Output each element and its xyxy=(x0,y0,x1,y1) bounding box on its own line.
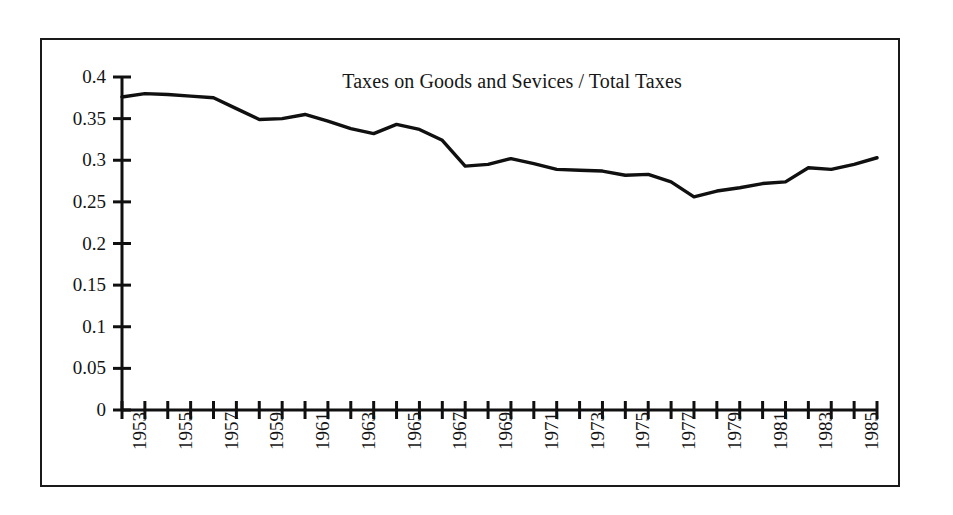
x-tick-label: 1963 xyxy=(359,412,378,450)
x-tick-label: 1973 xyxy=(588,412,607,450)
x-tick-label: 1977 xyxy=(679,412,698,450)
x-tick-label: 1961 xyxy=(313,412,332,450)
x-tick-label: 1965 xyxy=(405,412,424,450)
x-tick-label: 1953 xyxy=(130,412,149,450)
chart-frame: Taxes on Goods and Sevices / Total Taxes… xyxy=(40,38,900,487)
x-axis-tick-labels: 1953195519571959196119631965196719691971… xyxy=(42,40,902,489)
x-tick-label: 1955 xyxy=(176,412,195,450)
x-tick-label: 1975 xyxy=(633,412,652,450)
plot-area: Taxes on Goods and Sevices / Total Taxes… xyxy=(42,40,902,489)
x-tick-label: 1981 xyxy=(771,412,790,450)
x-tick-label: 1957 xyxy=(222,412,241,450)
x-tick-label: 1967 xyxy=(450,412,469,450)
x-tick-label: 1969 xyxy=(496,412,515,450)
x-tick-label: 1959 xyxy=(267,412,286,450)
x-tick-label: 1985 xyxy=(862,412,881,450)
chart-page: Taxes on Goods and Sevices / Total Taxes… xyxy=(0,0,953,515)
x-tick-label: 1971 xyxy=(542,412,561,450)
x-tick-label: 1983 xyxy=(816,412,835,450)
x-tick-label: 1979 xyxy=(725,412,744,450)
